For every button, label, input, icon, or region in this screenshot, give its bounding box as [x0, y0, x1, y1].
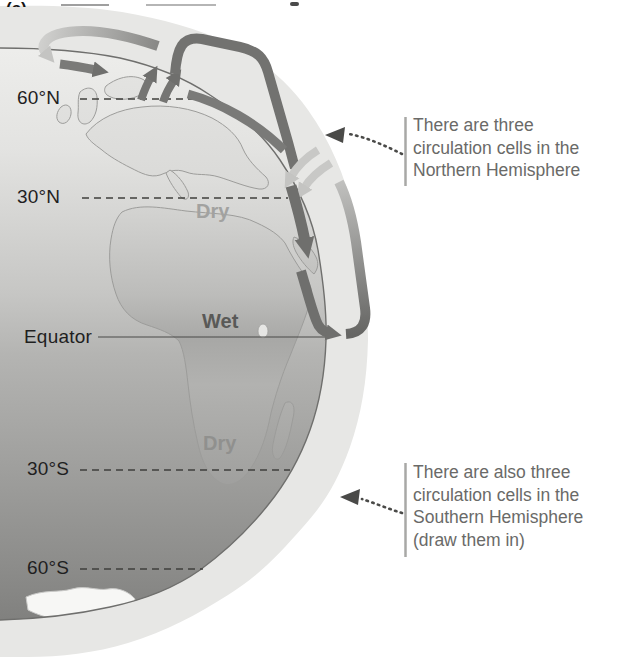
cropped-caption: (a) [6, 0, 326, 7]
annotation-north: There are three circulation cells in the… [413, 114, 628, 182]
annotation-line: Southern Hemisphere [413, 506, 628, 529]
left-arrowhead-icon [325, 127, 345, 143]
cropped-caption-text: (a) [6, 0, 27, 7]
latitude-label-60s: 60°S [27, 557, 69, 579]
climate-label-dry-north: Dry [196, 200, 229, 223]
climate-label-dry-south: Dry [203, 432, 236, 455]
annotation-pointer-south [340, 489, 402, 513]
annotation-line: circulation cells in the [413, 137, 628, 160]
cropped-text-fragment [146, 4, 216, 6]
annotation-pointer-north [325, 127, 402, 154]
cropped-text-fragment [61, 4, 109, 6]
annotation-line: There are three [413, 114, 628, 137]
globe-diagram [0, 0, 634, 657]
lake-victoria [258, 324, 268, 338]
figure-canvas: (a) 60°N 30°N Equator 30°S 60°S Dry Wet … [0, 0, 634, 657]
latitude-label-equator: Equator [24, 326, 92, 348]
left-arrowhead-icon [340, 489, 360, 505]
climate-label-wet: Wet [202, 310, 238, 333]
latitude-label-30n: 30°N [17, 186, 60, 208]
annotation-line: (draw them in) [413, 529, 628, 552]
annotation-line: circulation cells in the [413, 484, 628, 507]
annotation-line: There are also three [413, 461, 628, 484]
annotation-line: Northern Hemisphere [413, 159, 628, 182]
cropped-text-fragment [290, 2, 299, 6]
latitude-label-30s: 30°S [27, 458, 69, 480]
annotation-south: There are also three circulation cells i… [413, 461, 628, 551]
latitude-label-60n: 60°N [17, 87, 60, 109]
